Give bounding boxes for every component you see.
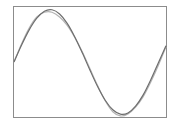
line-chart xyxy=(0,0,172,121)
series-line-approximation xyxy=(14,12,166,116)
series-layer xyxy=(14,10,166,116)
plot-frame xyxy=(14,7,167,118)
series-line-sin-x- xyxy=(14,10,166,115)
